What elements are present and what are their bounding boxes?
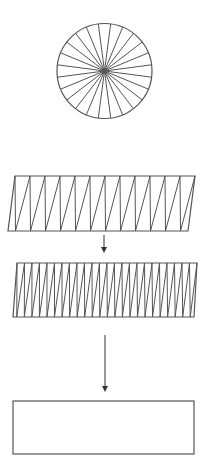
- arrowhead-icon: [102, 386, 108, 392]
- down-arrow-short: [101, 235, 107, 253]
- diagram-canvas: [0, 0, 207, 472]
- down-arrow-long: [102, 335, 108, 392]
- zigzag-parallelogram-dense: [13, 263, 197, 317]
- zigzag-parallelogram-sparse: [8, 176, 195, 231]
- zigzag-line: [15, 176, 195, 231]
- spoked-circle: [57, 24, 152, 119]
- empty-rectangle: [13, 401, 194, 454]
- arrowhead-icon: [101, 247, 107, 253]
- parallelogram-outline: [8, 176, 195, 231]
- zigzag-line: [17, 263, 197, 317]
- diagram-svg: [0, 0, 207, 472]
- rectangle-outline: [13, 401, 194, 454]
